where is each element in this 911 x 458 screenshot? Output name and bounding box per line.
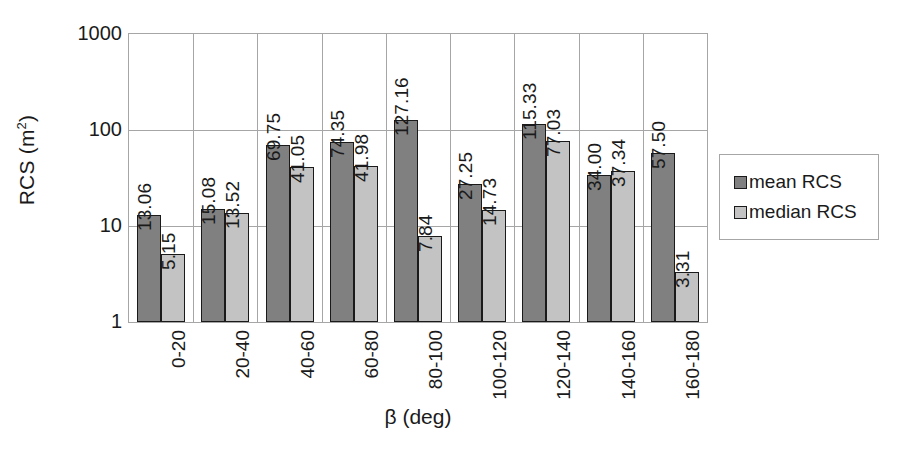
y-axis-tick-labels: 1000100101 (58, 0, 122, 458)
bar-median-60-80 (354, 166, 378, 322)
legend-label-mean: mean RCS (749, 171, 842, 193)
y-axis-tick-label: 10 (58, 214, 122, 237)
x-axis-tick-label: 100-120 (489, 330, 511, 400)
bar-value-label: 15.08 (198, 177, 220, 225)
bar-value-label: 34.00 (584, 143, 606, 191)
y-axis-tick-label: 1000 (58, 22, 122, 45)
x-axis-tick-label: 0-20 (168, 330, 190, 368)
bar-median-140-160 (611, 171, 635, 322)
bar-mean-140-160 (587, 175, 611, 322)
x-axis-tick-label: 80-100 (425, 330, 447, 389)
gridline-vertical (386, 34, 387, 322)
bar-value-label: 41.05 (287, 135, 309, 183)
x-axis-tick-label: 20-40 (232, 330, 254, 379)
y-axis-title-paren: ) (15, 115, 38, 122)
bar-mean-160-180 (651, 153, 675, 322)
bar-value-label: 14.73 (479, 178, 501, 226)
gridline-vertical (257, 34, 258, 322)
bar-value-label: 13.52 (222, 181, 244, 229)
x-axis-tick-label: 120-140 (553, 330, 575, 400)
bar-value-label: 3.31 (672, 251, 694, 288)
bar-value-label: 5.15 (158, 232, 180, 269)
bar-value-label: 74.35 (327, 110, 349, 158)
plot-area: 13.065.1515.0813.5269.7541.0574.3541.981… (128, 33, 708, 323)
chart-legend: mean RCS median RCS (719, 154, 879, 240)
bar-median-40-60 (290, 167, 314, 322)
gridline-vertical (193, 34, 194, 322)
y-axis-title-superscript: 2 (14, 122, 29, 129)
rcs-bar-chart: RCS (m2) 1000100101 13.065.1515.0813.526… (0, 0, 911, 458)
bar-value-label: 7.84 (415, 215, 437, 252)
legend-swatch-mean-icon (734, 176, 747, 189)
gridline-vertical (579, 34, 580, 322)
bar-value-label: 27.25 (455, 152, 477, 200)
gridline-horizontal (129, 130, 707, 131)
y-axis-tick-label: 100 (58, 118, 122, 141)
x-axis-title: β (deg) (128, 405, 708, 429)
bar-value-label: 77.03 (543, 109, 565, 157)
x-axis-tick-label: 40-60 (297, 330, 319, 379)
bar-value-label: 41.98 (351, 134, 373, 182)
legend-item-mean-rcs[interactable]: mean RCS (734, 167, 872, 197)
y-axis-tick-label: 1 (58, 310, 122, 333)
legend-item-median-rcs[interactable]: median RCS (734, 197, 872, 227)
gridline-vertical (643, 34, 644, 322)
gridline-vertical (450, 34, 451, 322)
gridline-vertical (514, 34, 515, 322)
bar-value-label: 13.06 (134, 183, 156, 231)
bar-value-label: 37.34 (608, 139, 630, 187)
gridline-vertical (322, 34, 323, 322)
y-axis-title-text: RCS (m (15, 129, 38, 205)
bar-median-20-40 (225, 213, 249, 322)
legend-label-median: median RCS (749, 201, 857, 223)
bar-value-label: 127.16 (391, 77, 413, 136)
legend-swatch-median-icon (734, 206, 747, 219)
bar-value-label: 57.50 (648, 121, 670, 169)
bar-mean-40-60 (266, 145, 290, 322)
x-axis-tick-label: 140-160 (618, 330, 640, 400)
bar-value-label: 115.33 (519, 83, 541, 140)
x-axis-tick-label: 60-80 (361, 330, 383, 379)
bar-median-100-120 (482, 210, 506, 322)
bar-median-120-140 (546, 141, 570, 322)
x-axis-tick-label: 160-180 (682, 330, 704, 400)
y-axis-title: RCS (m2) (15, 95, 39, 225)
bar-value-label: 69.75 (263, 113, 285, 161)
